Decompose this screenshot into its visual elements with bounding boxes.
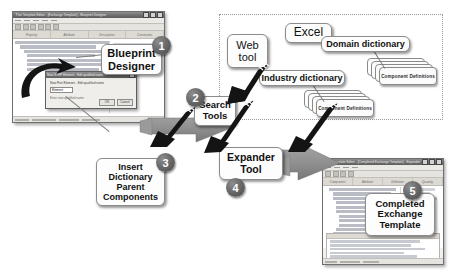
step-number: 2 — [192, 92, 198, 104]
step-badge-2: 2 — [186, 88, 205, 107]
black-arrow-components-to-expander — [288, 101, 339, 152]
step-badge-1: 1 — [152, 36, 171, 55]
black-curved-arrow-blueprint — [22, 58, 76, 98]
black-arrow-to-insert-dictionary — [150, 105, 197, 147]
step-badge-5: 5 — [403, 181, 422, 200]
arrow-layer-top — [0, 0, 453, 278]
step-number: 4 — [232, 182, 238, 194]
step-badge-3: 3 — [156, 153, 175, 172]
step-badge-4: 4 — [226, 178, 245, 197]
step-number: 5 — [409, 185, 415, 197]
step-number: 3 — [162, 157, 168, 169]
black-arrow-industry-to-expander — [204, 99, 255, 153]
black-arrow-webtool-to-search — [227, 63, 269, 104]
step-number: 1 — [158, 40, 164, 52]
diagram-canvas: Part Template Editor - [Exchange Templat… — [0, 0, 453, 278]
